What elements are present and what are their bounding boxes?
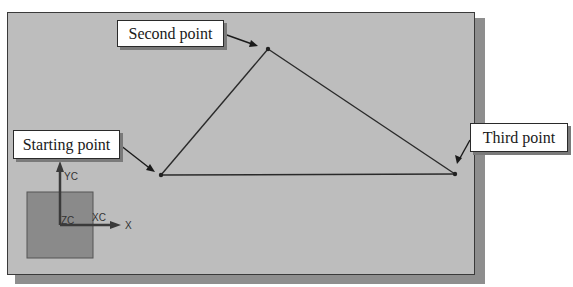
zc-label: ZC: [61, 215, 74, 226]
starting-point-callout: Starting point: [13, 130, 120, 159]
starting-point-marker[interactable]: [159, 173, 163, 177]
third-point-marker[interactable]: [453, 172, 457, 176]
second-point-callout: Second point: [117, 20, 224, 47]
xc-label: XC: [92, 212, 106, 223]
world-x-label: X: [125, 220, 132, 231]
third-callout-arrow: [455, 140, 470, 164]
starting-callout-arrow: [120, 145, 155, 172]
second-callout-arrow: [224, 34, 258, 47]
triangle-lines[interactable]: [161, 49, 455, 175]
yc-label: YC: [64, 171, 78, 182]
second-point-marker[interactable]: [266, 47, 270, 51]
third-point-callout: Third point: [470, 123, 568, 152]
